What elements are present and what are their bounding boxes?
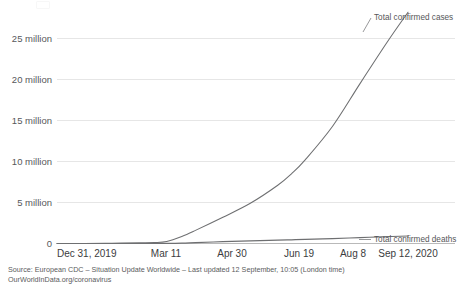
series-line-total-confirmed-cases [57, 12, 408, 243]
series-annotations: Total confirmed cases Total confirmed de… [359, 13, 456, 244]
gridlines [57, 39, 455, 203]
data-series [57, 12, 408, 243]
y-tick-label: 25 million [12, 33, 52, 44]
x-tick-label: Dec 31, 2019 [57, 248, 117, 259]
y-axis-labels: 25 million 20 million 15 million 10 mill… [12, 33, 52, 249]
series-label-cases: Total confirmed cases [374, 13, 453, 22]
source-attribution: Source: European CDC – Situation Update … [8, 265, 345, 274]
x-tick-label: Aug 8 [340, 248, 367, 259]
series-line-total-confirmed-deaths [57, 236, 408, 243]
y-tick-label: 20 million [12, 74, 52, 85]
cases-leader-line [363, 18, 371, 32]
y-tick-label: 5 million [17, 197, 52, 208]
x-tick-label: Mar 11 [151, 248, 182, 259]
x-tick-label: Jun 19 [284, 248, 314, 259]
source-url[interactable]: OurWorldInData.org/coronavirus [8, 275, 112, 284]
y-tick-label: 0 [47, 238, 52, 249]
y-tick-label: 15 million [12, 115, 52, 126]
covid-cumulative-chart: 25 million 20 million 15 million 10 mill… [0, 0, 462, 289]
chart-container: 25 million 20 million 15 million 10 mill… [0, 0, 462, 289]
y-tick-label: 10 million [12, 156, 52, 167]
chart-footer: Source: European CDC – Situation Update … [8, 265, 345, 284]
x-axis-labels: Dec 31, 2019 Mar 11 Apr 30 Jun 19 Aug 8 … [57, 248, 438, 259]
series-label-deaths: Total confirmed deaths [374, 235, 456, 244]
x-tick-label: Apr 30 [217, 248, 247, 259]
x-tick-label: Sep 12, 2020 [378, 248, 438, 259]
